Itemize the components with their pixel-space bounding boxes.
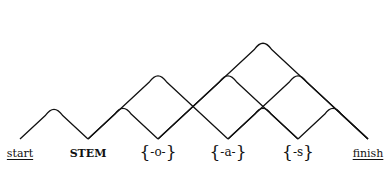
- node-s-label: -s: [293, 145, 303, 159]
- node-o: {-o-}: [140, 144, 177, 160]
- open-brace: {: [140, 142, 151, 162]
- close-brace: }: [303, 142, 314, 162]
- node-a: {-a-}: [210, 144, 247, 160]
- node-start: start: [7, 146, 33, 162]
- arcs-group: [20, 43, 368, 139]
- arc-start-stem: [20, 109, 88, 139]
- close-brace: }: [166, 142, 177, 162]
- node-o-label: -o-: [150, 145, 165, 159]
- close-brace: }: [236, 142, 247, 162]
- arc-o-finish: [158, 43, 368, 139]
- arc-o-s: [158, 76, 298, 139]
- arc-s-finish: [298, 108, 368, 139]
- open-brace: {: [210, 142, 221, 162]
- open-brace: {: [282, 142, 293, 162]
- arc-stem-a: [88, 76, 228, 139]
- arc-stem-o: [88, 108, 158, 139]
- node-finish: finish: [353, 146, 384, 162]
- node-stem: STEM: [70, 146, 107, 162]
- arc-a-s: [228, 108, 298, 139]
- lattice-diagram: [0, 0, 392, 172]
- node-s: {-s}: [282, 144, 314, 160]
- node-a-label: -a-: [220, 145, 235, 159]
- arc-a-finish: [228, 76, 368, 139]
